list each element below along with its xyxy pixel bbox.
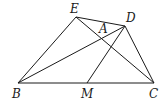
label-A: A [98, 22, 108, 36]
label-D: D [125, 11, 136, 25]
label-M: M [80, 87, 94, 101]
segment-BD [18, 26, 125, 83]
geometry-diagram: E D A B M C [0, 0, 168, 102]
label-B: B [11, 87, 21, 101]
label-E: E [69, 2, 79, 16]
segment-DC [125, 26, 154, 83]
segment-BE [18, 17, 76, 83]
label-C: C [149, 87, 158, 101]
segment-EC [76, 17, 154, 83]
